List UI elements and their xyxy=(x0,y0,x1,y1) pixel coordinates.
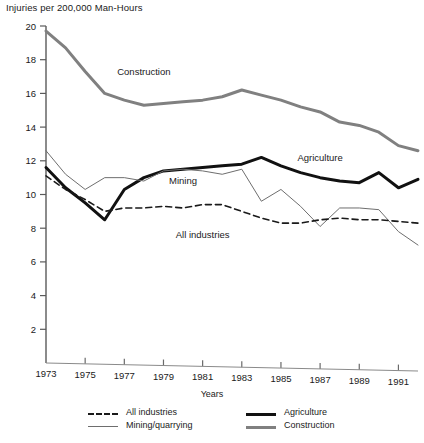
x-tick-label: 1983 xyxy=(231,372,252,383)
annotation-construction: Construction xyxy=(117,66,170,77)
x-tick-label: 1973 xyxy=(35,368,56,379)
y-tick-label: 10 xyxy=(25,189,36,200)
x-tick-label: 1979 xyxy=(153,371,174,382)
legend-label-construction: Construction xyxy=(284,419,335,432)
y-tick-label: 20 xyxy=(25,21,36,32)
legend-item-agriculture: Agriculture xyxy=(246,406,335,419)
legend-swatch-all-industries xyxy=(88,408,118,418)
legend-swatch-construction xyxy=(246,421,276,431)
x-tick-label: 1975 xyxy=(75,369,96,380)
annotation-agriculture: Agriculture xyxy=(297,152,342,163)
y-tick-label: 6 xyxy=(31,256,36,267)
y-tick-label: 4 xyxy=(31,290,36,301)
y-tick-label: 18 xyxy=(25,54,36,65)
x-tick-label: 1977 xyxy=(114,370,135,381)
y-tick-label: 12 xyxy=(25,155,36,166)
annotation-all-industries: All industries xyxy=(176,229,230,240)
chart-legend: All industries Mining/quarrying Agricult… xyxy=(0,406,424,442)
legend-column-left: All industries Mining/quarrying xyxy=(88,406,193,432)
x-tick-label: 1987 xyxy=(310,374,331,385)
annotation-mining: Mining xyxy=(169,175,197,186)
legend-label-mining-quarrying: Mining/quarrying xyxy=(126,419,193,432)
series-group xyxy=(46,31,418,245)
y-tick-label: 2 xyxy=(31,324,36,335)
series-annotation-group: ConstructionAgricultureMiningAll industr… xyxy=(117,66,343,240)
x-axis-tick-group: 1973197519771979198119831985198719891991 xyxy=(35,358,409,387)
x-axis-line xyxy=(46,363,418,371)
injury-rate-line-chart: Injuries per 200,000 Man-Hours 201816141… xyxy=(0,0,424,443)
x-tick-label: 1981 xyxy=(192,371,213,382)
series-line-construction xyxy=(46,31,418,151)
legend-label-agriculture: Agriculture xyxy=(284,406,327,419)
y-tick-label: 14 xyxy=(25,122,36,133)
x-axis-title: Years xyxy=(0,389,424,399)
legend-column-right: Agriculture Construction xyxy=(246,406,335,432)
y-axis-tick-group: 2018161412108642 xyxy=(25,21,46,335)
legend-item-construction: Construction xyxy=(246,419,335,432)
x-tick-label: 1985 xyxy=(270,373,291,384)
legend-label-all-industries: All industries xyxy=(126,406,177,419)
y-tick-label: 16 xyxy=(25,88,36,99)
legend-item-mining-quarrying: Mining/quarrying xyxy=(88,419,193,432)
x-tick-label: 1991 xyxy=(388,376,409,387)
y-tick-label: 8 xyxy=(31,223,36,234)
plot-area: 2018161412108642 19731975197719791981198… xyxy=(0,0,424,443)
legend-swatch-mining-quarrying xyxy=(88,421,118,431)
x-tick-label: 1989 xyxy=(349,375,370,386)
legend-item-all-industries: All industries xyxy=(88,406,193,419)
legend-swatch-agriculture xyxy=(246,408,276,418)
